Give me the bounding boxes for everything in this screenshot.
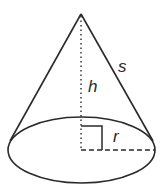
label-height: h xyxy=(88,77,97,96)
cone-figure: s h r xyxy=(0,0,163,195)
cone-diagram: s h r xyxy=(0,0,163,195)
label-slant-height: s xyxy=(118,57,127,76)
label-radius: r xyxy=(113,127,120,146)
right-angle-marker xyxy=(81,126,102,150)
